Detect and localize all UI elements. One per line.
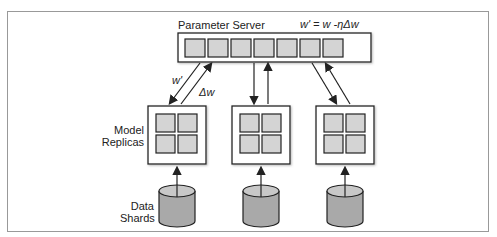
data-label: Data xyxy=(120,200,154,212)
model-replica-1 xyxy=(148,106,206,164)
diagram-canvas xyxy=(0,0,497,237)
model-label: Model xyxy=(114,124,144,136)
parameter-server-label: Parameter Server xyxy=(178,19,265,31)
update-formula: w' = w -ηΔw xyxy=(300,18,359,30)
parameter-server-box xyxy=(178,33,371,62)
shards-label: Shards xyxy=(120,212,154,224)
model-replica-3 xyxy=(316,106,374,164)
replicas-label: Replicas xyxy=(100,136,144,148)
model-replica-2 xyxy=(232,106,290,164)
gradient-up-label: Δw xyxy=(199,86,214,98)
weights-down-label: w' xyxy=(172,74,182,86)
